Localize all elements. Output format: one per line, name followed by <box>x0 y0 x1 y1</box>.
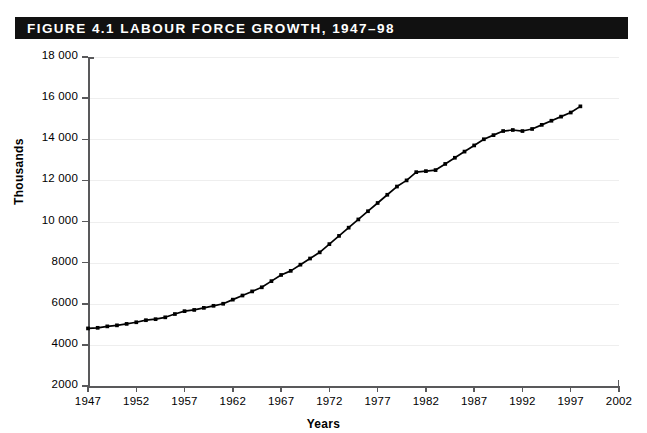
data-point-marker <box>212 304 216 308</box>
data-point-marker <box>453 156 457 160</box>
data-point-marker <box>443 162 447 166</box>
data-point-marker <box>144 318 148 322</box>
data-point-marker <box>241 294 245 298</box>
data-point-marker <box>86 327 90 331</box>
data-point-marker <box>501 129 505 133</box>
data-point-marker <box>318 250 322 254</box>
data-point-marker <box>96 326 100 330</box>
chart-plot-area: 18 00016 00014 00012 00010 0008000600040… <box>0 45 647 433</box>
data-point-marker <box>356 218 360 222</box>
data-point-marker <box>414 170 418 174</box>
data-point-marker <box>579 105 583 109</box>
data-point-marker <box>492 133 496 137</box>
labour-force-line <box>88 106 580 328</box>
data-point-marker <box>279 273 283 277</box>
data-point-marker <box>395 185 399 189</box>
data-point-marker <box>511 128 515 132</box>
data-point-marker <box>328 242 332 246</box>
data-point-marker <box>270 279 274 283</box>
figure-title-text: FIGURE 4.1 LABOUR FORCE GROWTH, 1947–98 <box>15 21 395 36</box>
data-point-marker <box>463 150 467 154</box>
data-point-marker <box>385 193 389 197</box>
y-axis-title: Thousands <box>12 138 26 205</box>
data-point-marker <box>366 209 370 213</box>
data-point-marker <box>289 269 293 273</box>
data-point-marker <box>347 226 351 230</box>
data-point-marker <box>540 123 544 127</box>
data-point-marker <box>202 306 206 310</box>
labour-force-series <box>0 45 647 433</box>
data-point-marker <box>308 257 312 261</box>
data-point-marker <box>424 169 428 173</box>
data-point-marker <box>434 168 438 172</box>
data-point-marker <box>299 263 303 267</box>
data-point-marker <box>550 119 554 123</box>
data-point-marker <box>530 127 534 131</box>
data-point-marker <box>154 317 158 321</box>
data-point-marker <box>105 325 109 329</box>
data-point-marker <box>115 323 119 327</box>
data-point-marker <box>163 315 167 319</box>
data-point-marker <box>125 322 129 326</box>
data-point-marker <box>183 309 187 313</box>
data-point-marker <box>337 234 341 238</box>
data-point-marker <box>482 137 486 141</box>
x-axis-title: Years <box>0 417 647 431</box>
data-point-marker <box>173 312 177 316</box>
data-point-marker <box>134 320 138 324</box>
labour-force-markers <box>86 105 582 331</box>
data-point-marker <box>521 129 525 133</box>
figure-title-banner: FIGURE 4.1 LABOUR FORCE GROWTH, 1947–98 <box>15 17 628 39</box>
data-point-marker <box>221 302 225 306</box>
data-point-marker <box>569 111 573 115</box>
figure-container: FIGURE 4.1 LABOUR FORCE GROWTH, 1947–98 … <box>0 0 647 433</box>
data-point-marker <box>231 298 235 302</box>
data-point-marker <box>260 285 264 289</box>
data-point-marker <box>405 179 409 183</box>
data-point-marker <box>376 201 380 205</box>
data-point-marker <box>472 144 476 148</box>
data-point-marker <box>250 290 254 294</box>
data-point-marker <box>192 308 196 312</box>
data-point-marker <box>559 115 563 119</box>
